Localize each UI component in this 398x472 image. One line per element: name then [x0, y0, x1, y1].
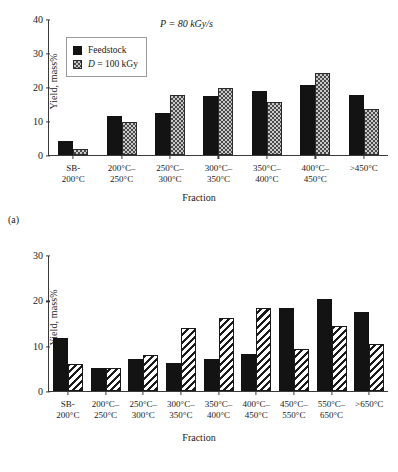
x-tick-mark: [369, 391, 370, 395]
chart-panel-a: Yield, mass% 010203040 SB-200°C200°C–250…: [0, 0, 398, 236]
x-tick-line-2: 200°C: [49, 410, 87, 421]
y-tick-label: 0: [38, 151, 49, 161]
x-tick-line-1: 350°C–: [200, 399, 238, 410]
x-tick-label: 350°C–400°C: [243, 155, 291, 195]
x-tick-mark: [363, 155, 364, 159]
x-tick-line-1: 250°C–: [146, 163, 194, 174]
bar: [294, 349, 309, 391]
bar: [315, 73, 330, 155]
legend-item-label: D = 100 kGy: [88, 57, 138, 71]
x-tick-mark: [105, 391, 106, 395]
bar: [122, 122, 137, 155]
x-tick-line-1: 450°C–: [275, 399, 313, 410]
bar-group: [243, 20, 291, 155]
x-tick-line-1: 400°C–: [237, 399, 275, 410]
annotation-symbol-a: P = 80 kGy/s: [160, 18, 213, 29]
figure-root: Yield, mass% 010203040 SB-200°C200°C–250…: [0, 0, 398, 472]
x-tick-line-2: 350°C: [194, 174, 242, 185]
bar: [219, 318, 234, 391]
bar: [91, 368, 106, 391]
plot-area-b: Yield, mass% 0102030 SB-200°C200°C–250°C…: [48, 256, 388, 392]
bar-group: [237, 256, 275, 391]
bar: [106, 368, 121, 391]
bar-group: [275, 256, 313, 391]
x-tick-line-2: 300°C: [124, 410, 162, 421]
y-tick-label: 20: [33, 83, 49, 93]
x-tick-label: 400°C–450°C: [237, 391, 275, 431]
x-tick-label: 300°C–350°C: [162, 391, 200, 431]
chart-panel-b: Yield, mass% 0102030 SB-200°C200°C–250°C…: [0, 236, 398, 472]
x-tick-mark: [331, 391, 332, 395]
x-tick-line-1: 400°C–: [291, 163, 339, 174]
x-tick-line-2: 250°C: [87, 410, 125, 421]
y-tick-label: 40: [33, 15, 49, 25]
x-axis-title-b: Fraction: [0, 432, 398, 443]
bar: [143, 355, 158, 391]
x-tick-label: 450°C–550°C: [275, 391, 313, 431]
legend-a: FeedstockD = 100 kGy: [66, 37, 147, 77]
x-tick-label: SB-200°C: [49, 155, 97, 195]
x-tick-line-2: 250°C: [97, 174, 145, 185]
bar: [58, 141, 73, 155]
bar-group: [340, 20, 388, 155]
bar-group: [124, 256, 162, 391]
bar: [241, 354, 256, 391]
panel-caption-a: (a): [8, 214, 19, 225]
x-tick-line-2: 450°C: [291, 174, 339, 185]
x-tick-label: >450°C: [340, 155, 388, 195]
x-tick-mark: [256, 391, 257, 395]
y-tick-label: 10: [33, 342, 49, 352]
x-tick-line-1: 300°C–: [162, 399, 200, 410]
bar: [369, 344, 384, 391]
bar: [203, 96, 218, 155]
x-tick-line-2: 550°C: [275, 410, 313, 421]
bar: [349, 95, 364, 155]
bar: [317, 299, 332, 391]
bar: [279, 308, 294, 391]
bar-series-b: [49, 256, 388, 391]
x-axis-ticks-a: SB-200°C200°C–250°C250°C–300°C300°C–350°…: [49, 155, 388, 195]
x-tick-label: 400°C–450°C: [291, 155, 339, 195]
solid-swatch-icon: [73, 46, 82, 55]
bar: [364, 109, 379, 155]
bar-group: [291, 20, 339, 155]
x-tick-line-1: 200°C–: [87, 399, 125, 410]
x-tick-line-1: SB-: [49, 399, 87, 410]
x-tick-line-2: 400°C: [243, 174, 291, 185]
x-tick-line-2: 400°C: [200, 410, 238, 421]
bar: [53, 338, 68, 391]
bar: [204, 359, 219, 391]
x-tick-label: 350°C–400°C: [200, 391, 238, 431]
y-tick-label: 0: [38, 387, 49, 397]
x-tick-label: 250°C–300°C: [146, 155, 194, 195]
legend-item: Feedstock: [73, 43, 138, 57]
x-tick-line-1: 250°C–: [124, 399, 162, 410]
bar-group: [162, 256, 200, 391]
y-tick-label: 30: [33, 49, 49, 59]
legend-item-label: Feedstock: [88, 43, 127, 57]
x-tick-line-1: SB-: [49, 163, 97, 174]
x-tick-mark: [121, 155, 122, 159]
x-tick-line-2: 350°C: [162, 410, 200, 421]
x-tick-line-2: 450°C: [237, 410, 275, 421]
bar: [267, 102, 282, 155]
bar-group: [313, 256, 351, 391]
x-axis-ticks-b: SB-200°C200°C–250°C250°C–300°C300°C–350°…: [49, 391, 388, 431]
x-tick-mark: [315, 155, 316, 159]
bar-group: [49, 256, 87, 391]
bar: [166, 363, 181, 391]
bar: [252, 91, 267, 155]
bar: [170, 95, 185, 155]
x-tick-line-2: 200°C: [49, 174, 97, 185]
bar: [128, 359, 143, 391]
x-tick-label: 200°C–250°C: [87, 391, 125, 431]
checker-swatch-icon: [73, 60, 82, 69]
legend-symbol: D: [88, 59, 95, 69]
x-tick-label: SB-200°C: [49, 391, 87, 431]
bar: [354, 312, 369, 391]
x-tick-label: 300°C–350°C: [194, 155, 242, 195]
bar-group: [146, 20, 194, 155]
x-tick-mark: [293, 391, 294, 395]
x-tick-label: 550°C–650°C: [313, 391, 351, 431]
bar: [181, 328, 196, 391]
